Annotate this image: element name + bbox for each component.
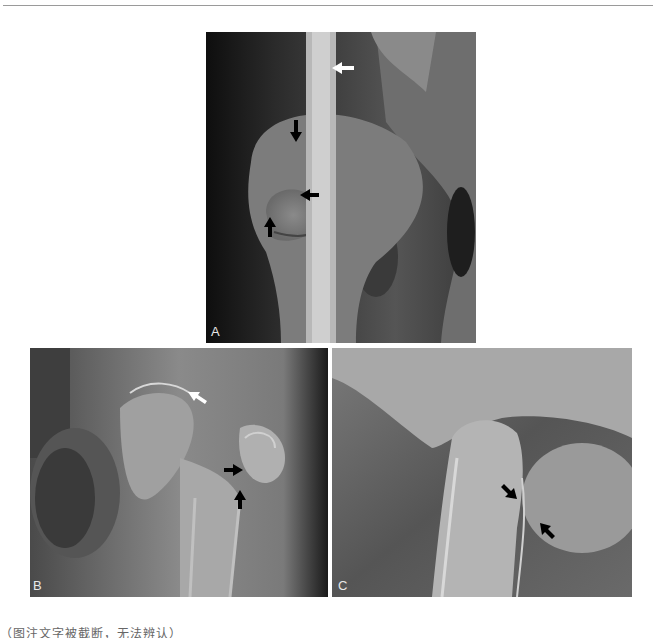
panel-label-a: A <box>211 324 220 339</box>
figure-panel-b: B <box>30 348 328 597</box>
panel-label-b: B <box>33 578 42 593</box>
figure-panel-c: C <box>332 348 632 597</box>
figure-caption: （图注文字被截断，无法辨认） <box>0 627 661 638</box>
caption-text: （图注文字被截断，无法辨认） <box>0 627 661 638</box>
radiograph-a <box>206 32 476 343</box>
radiograph-b <box>30 348 328 597</box>
figure-panel-a: A <box>206 32 476 343</box>
radiograph-c <box>332 348 632 597</box>
top-rule <box>3 5 653 6</box>
panel-label-c: C <box>338 578 347 593</box>
